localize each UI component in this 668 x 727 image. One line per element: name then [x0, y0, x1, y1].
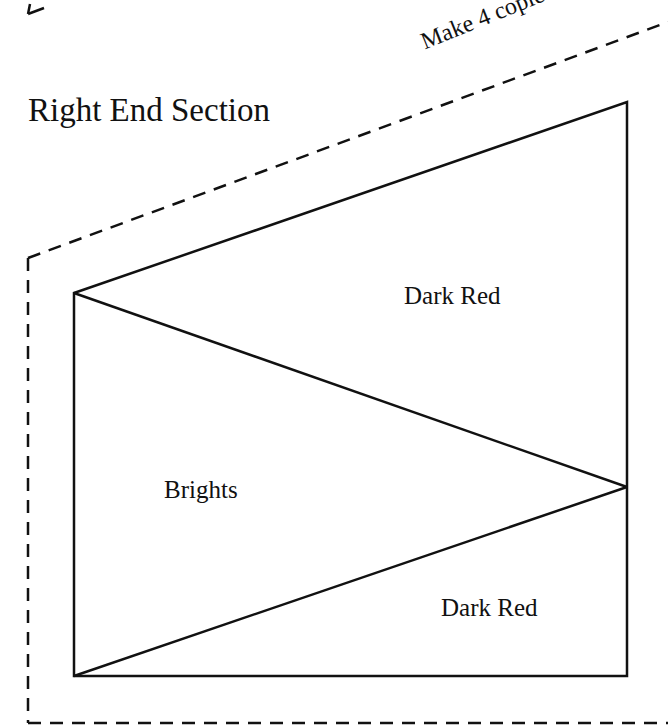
- corner-mark: [28, 4, 44, 14]
- upper-division-line: [74, 293, 627, 487]
- lower-division-line: [74, 487, 627, 676]
- region-label-top: Dark Red: [404, 282, 501, 310]
- section-title: Right End Section: [28, 92, 270, 129]
- seam-allowance-diagonal: [28, 22, 668, 258]
- region-label-bottom: Dark Red: [441, 594, 538, 622]
- region-label-middle: Brights: [164, 476, 238, 504]
